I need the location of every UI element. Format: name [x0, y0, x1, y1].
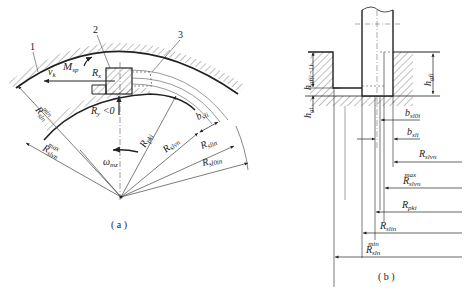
panel-b: hgfi hgf(i−1) hgi bsl0i bsli Rslvn Rslvn…	[302, 7, 462, 287]
caption-a: ( a )	[111, 219, 127, 231]
label-rslin-b: Rslin	[379, 220, 397, 233]
bsli-dimension	[200, 122, 218, 132]
floor-hatch	[310, 96, 395, 106]
label-hgi: hgi	[302, 108, 315, 119]
label-rpki-b: Rpki	[401, 199, 417, 212]
part-label-2: 2	[93, 24, 98, 35]
label-rslvn: Rslvn	[159, 135, 182, 157]
center-point	[120, 196, 123, 199]
label-msp: Msp	[62, 60, 79, 74]
label-rsl0in: Rsl0in	[200, 152, 224, 170]
label-rslin: Rslin	[198, 134, 219, 153]
part-label-1: 1	[30, 41, 35, 52]
label-rx: Rx	[91, 67, 102, 80]
tool-body	[362, 10, 393, 96]
label-rsln-min-b: Rslnmin	[365, 240, 381, 257]
svg-text:Rpki: Rpki	[137, 131, 156, 151]
r-slvn-max-line	[26, 143, 121, 197]
figure-canvas: 1 2 3 Msp vk Rx Ry <0 Rslnmin Rslvnmax ω…	[0, 0, 473, 290]
label-ry: Ry <0	[90, 105, 114, 118]
label-rslvn-max: Rslvnmax	[39, 139, 63, 162]
msp-arrow	[84, 57, 92, 66]
svg-text:Rslvnmax: Rslvnmax	[39, 139, 63, 162]
right-step-hatch	[393, 52, 413, 106]
label-omega-mz: ωmz	[103, 156, 118, 169]
svg-text:Rslin: Rslin	[198, 134, 219, 153]
label-rpki: Rpki	[137, 131, 156, 151]
label-rslvn-b: Rslvn	[418, 148, 437, 161]
svg-text:hgi: hgi	[302, 108, 315, 119]
label-vk: vk	[48, 66, 56, 79]
label-bsli-b: bsli	[407, 126, 419, 139]
label-bsl0i: bsl0i	[405, 107, 420, 120]
caption-b: ( b )	[378, 271, 395, 283]
r-slvn-line	[121, 133, 198, 197]
panel-a: 1 2 3 Msp vk Rx Ry <0 Rslnmin Rslvnmax ω…	[8, 24, 248, 231]
label-rslvn-max-b: Rslvnmax	[402, 171, 421, 188]
part-label-3: 3	[178, 29, 183, 40]
svg-text:Rsl0in: Rsl0in	[200, 152, 224, 170]
label-bsli-a: bsli	[194, 107, 210, 124]
svg-text:Rslvn: Rslvn	[159, 135, 182, 157]
r-sln-min-line	[18, 86, 121, 197]
omega-arrow	[113, 150, 138, 152]
svg-text:bsli: bsli	[194, 107, 210, 124]
